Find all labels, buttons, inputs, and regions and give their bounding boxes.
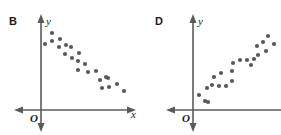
data-point [224,84,228,88]
data-point [76,59,80,63]
data-point [219,71,223,75]
data-point [256,53,260,57]
data-point [70,56,74,60]
data-point [245,58,249,62]
panel-b-x-axis-label: x [130,108,136,120]
data-point [83,62,87,66]
data-point [64,43,68,47]
panel-d-origin-label: O [182,112,190,124]
data-point [205,86,209,90]
data-point [100,86,104,90]
data-point [252,57,256,61]
data-point [50,39,54,43]
data-point [264,49,268,53]
data-point [122,89,126,93]
panel-d-y-axis-label: y [197,15,203,27]
data-point [76,68,80,72]
data-point [86,70,90,74]
data-point [261,40,265,44]
data-point [255,44,259,48]
data-point [212,75,216,79]
panel-b-origin-label: O [30,112,38,124]
panel-b-y-axis-label: y [45,15,51,27]
data-point [98,78,102,82]
data-point [106,76,110,80]
data-point [249,63,253,67]
data-point [230,79,234,83]
data-point [43,42,47,46]
data-point [115,82,119,86]
data-point [63,52,67,56]
data-point [107,85,111,89]
data-point [58,37,62,41]
data-point [197,93,201,97]
data-point [272,42,276,46]
data-point [57,45,61,49]
data-point [77,51,81,55]
panel-d-letter: D [155,15,163,27]
scatterplot-figure: B y x O D y O [0,0,281,135]
data-point [266,34,270,38]
data-point [206,100,210,104]
data-point [50,31,54,35]
data-point [231,61,235,65]
data-point [230,69,234,73]
data-point [217,84,221,88]
data-point [238,58,242,62]
data-point [94,69,98,73]
data-point [69,45,73,49]
data-point [210,83,214,87]
panel-b-letter: B [9,15,17,27]
